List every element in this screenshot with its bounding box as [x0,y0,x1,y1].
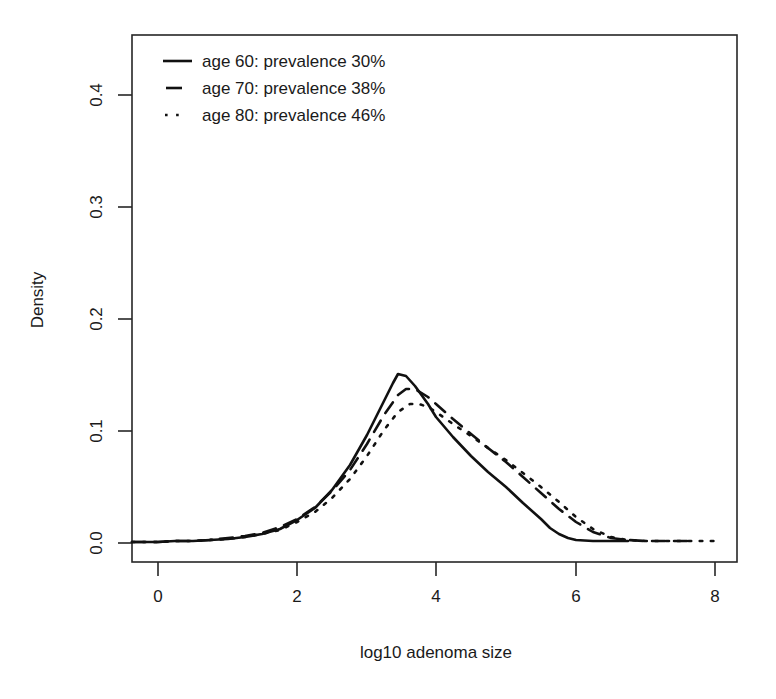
x-tick-label-8: 8 [710,587,719,606]
x-tick-label-6: 6 [571,587,580,606]
x-tick-label-2: 2 [292,587,301,606]
legend-label-age-70: age 70: prevalence 38% [202,79,385,98]
y-tick-label-01: 0.1 [87,419,106,443]
density-plot-figure: 0 2 4 6 8 0.0 0.1 0.2 0.3 0.4 Density lo… [0,0,776,699]
y-axis-title: Density [28,271,47,328]
y-tick-label-04: 0.4 [87,83,106,107]
chart-background [0,0,776,699]
y-tick-label-03: 0.3 [87,195,106,219]
y-tick-label-02: 0.2 [87,307,106,331]
x-tick-label-4: 4 [431,587,440,606]
chart-svg: 0 2 4 6 8 0.0 0.1 0.2 0.3 0.4 Density lo… [0,0,776,699]
y-tick-label-00: 0.0 [87,531,106,555]
x-axis-title: log10 adenoma size [360,643,512,662]
x-tick-label-0: 0 [153,587,162,606]
legend-label-age-80: age 80: prevalence 46% [202,106,385,125]
legend-label-age-60: age 60: prevalence 30% [202,52,385,71]
